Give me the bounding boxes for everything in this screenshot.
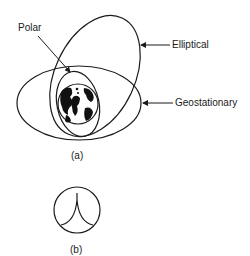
polar-label: Polar — [18, 22, 41, 34]
geostationary-label: Geostationary — [175, 97, 237, 109]
figure-b-caption: (b) — [70, 244, 82, 256]
earth-icon — [58, 84, 98, 124]
cusp-circle-figure — [54, 187, 100, 233]
figure-a-caption: (a) — [71, 150, 83, 162]
polar-arrow — [38, 36, 70, 72]
elliptical-label: Elliptical — [172, 39, 209, 51]
